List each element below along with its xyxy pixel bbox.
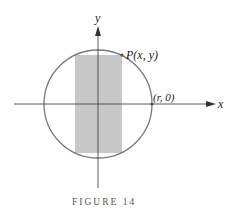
y-axis-arrow-icon <box>95 26 101 36</box>
figure-caption: FIGURE 14 <box>72 197 136 207</box>
x-axis-label: x <box>217 97 224 111</box>
y-axis-label: y <box>94 11 101 25</box>
point-p-label: P(x, y) <box>125 48 158 62</box>
figure-diagram: x y P(x, y) (r, 0) FIGURE 14 <box>0 0 231 209</box>
point-p <box>120 53 123 56</box>
x-axis-arrow-icon <box>206 101 216 107</box>
point-r0-label: (r, 0) <box>153 91 175 104</box>
